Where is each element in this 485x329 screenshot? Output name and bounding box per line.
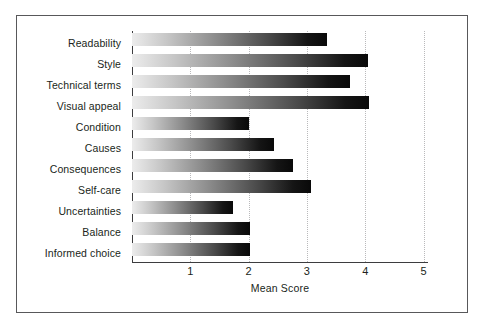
bar-row	[132, 157, 428, 178]
value-axis-line	[132, 262, 428, 263]
category-label: Technical terms	[17, 75, 127, 96]
bar	[132, 96, 369, 109]
x-axis-tick-label: 3	[304, 265, 310, 277]
x-axis-tick-label: 5	[420, 265, 426, 277]
chart-figure-frame: Readability Style Technical terms Visual…	[16, 15, 468, 313]
category-label: Uncertainties	[17, 201, 127, 222]
bar-row	[132, 52, 428, 73]
bar	[132, 138, 274, 151]
x-axis-tick-labels: 12345	[132, 265, 442, 281]
plot-area	[132, 31, 428, 262]
category-label: Causes	[17, 138, 127, 159]
bar-row	[132, 199, 428, 220]
bar-series	[132, 31, 428, 262]
bar	[132, 201, 233, 214]
bar	[132, 180, 311, 193]
bar	[132, 243, 250, 256]
bar-row	[132, 241, 428, 262]
category-label: Visual appeal	[17, 96, 127, 117]
bar	[132, 159, 293, 172]
category-label: Self-care	[17, 180, 127, 201]
category-label: Consequences	[17, 159, 127, 180]
bar-row	[132, 31, 428, 52]
bar-row	[132, 115, 428, 136]
category-label: Readability	[17, 33, 127, 54]
bar	[132, 117, 249, 130]
bar	[132, 33, 327, 46]
bar	[132, 54, 368, 67]
bar-row	[132, 94, 428, 115]
bar-row	[132, 73, 428, 94]
bar-row	[132, 220, 428, 241]
bar	[132, 75, 350, 88]
category-label: Condition	[17, 117, 127, 138]
x-axis-tick-label: 2	[246, 265, 252, 277]
category-label: Balance	[17, 222, 127, 243]
x-axis-title: Mean Score	[132, 282, 428, 294]
bar	[132, 222, 250, 235]
bar-row	[132, 136, 428, 157]
category-label: Style	[17, 54, 127, 75]
bar-row	[132, 178, 428, 199]
category-label: Informed choice	[17, 243, 127, 264]
bar-chart: Readability Style Technical terms Visual…	[17, 16, 469, 314]
x-axis-tick-label: 1	[187, 265, 193, 277]
x-axis-tick-label: 4	[362, 265, 368, 277]
category-axis-labels: Readability Style Technical terms Visual…	[17, 33, 127, 264]
